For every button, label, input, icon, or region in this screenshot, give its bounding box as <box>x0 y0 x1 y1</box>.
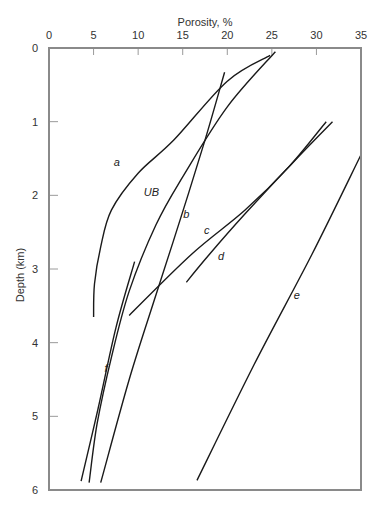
curve-label-b: b <box>183 208 189 220</box>
curves <box>81 52 361 483</box>
curve-label-e: e <box>294 289 300 301</box>
curve-label-a: a <box>114 156 120 168</box>
x-axis-title: Porosity, % <box>178 16 233 28</box>
y-tick-label: 4 <box>32 337 38 349</box>
curve-b <box>101 72 225 482</box>
x-tick-label: 35 <box>355 29 367 41</box>
y-axis-title: Depth (km) <box>14 248 26 302</box>
porosity-depth-chart: Porosity, % Depth (km) 05101520253035 01… <box>0 0 382 506</box>
curve-label-c: c <box>204 224 210 236</box>
x-tick-label: 0 <box>46 29 52 41</box>
y-tick-label: 5 <box>32 410 38 422</box>
x-tick-label: 5 <box>91 29 97 41</box>
curve-a <box>94 55 271 317</box>
x-tick-label: 10 <box>132 29 144 41</box>
curve-label-ub: UB <box>144 186 159 198</box>
x-tick-label: 20 <box>221 29 233 41</box>
curve-ub <box>89 52 275 483</box>
x-tick-label: 25 <box>266 29 278 41</box>
curve-label-d: d <box>218 250 225 262</box>
y-tick-label: 6 <box>32 484 38 496</box>
curve-e <box>197 155 361 481</box>
y-tick-label: 2 <box>32 189 38 201</box>
y-tick-label: 1 <box>32 116 38 128</box>
x-axis-ticks: 05101520253035 <box>46 29 367 55</box>
y-tick-label: 3 <box>32 263 38 275</box>
x-tick-label: 30 <box>310 29 322 41</box>
y-tick-label: 0 <box>32 42 38 54</box>
y-axis-ticks: 0123456 <box>32 42 58 496</box>
x-tick-label: 15 <box>177 29 189 41</box>
